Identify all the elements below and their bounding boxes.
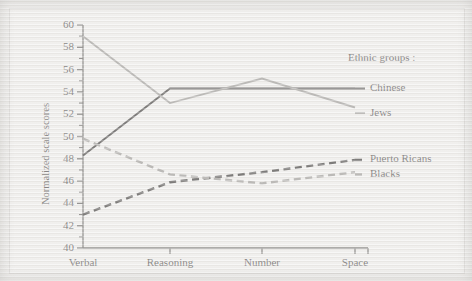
legend-label-jews: Jews [370, 106, 391, 118]
y-tick-label: 40 [48, 241, 74, 253]
y-tick-label: 60 [48, 18, 74, 30]
y-tick-label: 44 [48, 196, 74, 208]
x-tick-label-space: Space [310, 256, 400, 268]
legend-label-puerto-ricans: Puerto Ricans [370, 152, 431, 164]
y-tick-label: 56 [48, 63, 74, 75]
y-axis-ticks [77, 25, 83, 248]
legend-label-blacks: Blacks [370, 167, 400, 179]
series-lines [83, 36, 355, 214]
y-tick-label: 54 [48, 85, 74, 97]
series-line-puerto-ricans [83, 160, 355, 215]
y-tick-label: 50 [48, 130, 74, 142]
y-tick-label: 48 [48, 152, 74, 164]
x-tick-label-number: Number [217, 256, 307, 268]
chart-image: Normalized scale scores Ethnic groups : … [0, 0, 472, 281]
y-tick-label: 58 [48, 40, 74, 52]
series-line-chinese [83, 89, 355, 156]
x-tick-label-reasoning: Reasoning [125, 256, 215, 268]
x-axis-ticks [170, 248, 368, 254]
series-line-jews [83, 36, 355, 107]
legend-title: Ethnic groups : [348, 51, 415, 63]
legend-label-chinese: Chinese [370, 81, 405, 93]
y-tick-label: 42 [48, 219, 74, 231]
legend-line-keys [355, 89, 365, 175]
y-tick-label: 46 [48, 174, 74, 186]
x-tick-label-verbal: Verbal [38, 256, 128, 268]
y-tick-label: 52 [48, 107, 74, 119]
